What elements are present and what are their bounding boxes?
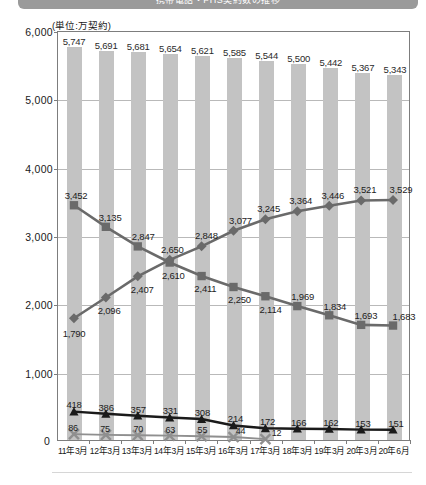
- point-value-label: 70: [133, 424, 143, 434]
- y-axis-tick-label: 5,000: [25, 94, 53, 106]
- point-value-label: 2,250: [228, 294, 251, 305]
- bar-value-label: 5,681: [127, 41, 150, 52]
- point-value-label: 1,693: [354, 310, 377, 321]
- diamond-marker: [388, 195, 398, 205]
- y-axis-tick-label: 2,000: [25, 299, 53, 311]
- point-value-label: 151: [388, 418, 403, 429]
- point-value-label: 214: [228, 413, 243, 424]
- point-value-label: 55: [198, 425, 208, 435]
- chart-container: (単位:万契約) 1,0002,0003,0004,0005,0006,000 …: [0, 0, 426, 485]
- point-value-label: 12: [272, 428, 282, 438]
- point-value-label: 331: [163, 405, 178, 416]
- point-value-label: 166: [291, 417, 306, 428]
- diamond-marker: [324, 201, 334, 211]
- point-value-label: 2,407: [131, 284, 154, 295]
- diamond-marker: [197, 241, 207, 251]
- x-axis-tick-label: 17年3月: [250, 444, 281, 456]
- point-value-label: 308: [195, 407, 210, 418]
- line-series-layer: [58, 32, 409, 440]
- point-value-label: 1,790: [63, 328, 86, 339]
- x-axis-tick-label: 11年3月: [58, 444, 88, 456]
- point-value-label: 86: [68, 423, 78, 433]
- bar-value-label: 5,500: [287, 53, 310, 64]
- point-value-label: 2,847: [132, 231, 155, 242]
- y-axis-tick-label: 3,000: [25, 231, 53, 243]
- square-marker: [325, 311, 333, 319]
- point-value-label: 3,452: [65, 190, 88, 201]
- point-value-label: 3,364: [289, 195, 312, 206]
- bar-value-label: 5,621: [191, 45, 214, 56]
- point-value-label: 63: [166, 425, 176, 435]
- point-value-label: 1,969: [291, 291, 314, 302]
- plot-area: 1,0002,0003,0004,0005,0006,000 5,7475,69…: [57, 31, 410, 441]
- x-axis-tick-label: 20年3月: [346, 444, 377, 456]
- x-axis-tick-mark: [410, 440, 411, 444]
- y-axis-zero-label: 0: [44, 435, 50, 447]
- y-axis-tick-label: 6,000: [25, 26, 53, 38]
- bar-value-label: 5,654: [159, 43, 182, 54]
- point-value-label: 1,834: [323, 301, 346, 312]
- x-axis-tick-label: 19年3月: [314, 444, 345, 456]
- x-axis-tick-label: 15年3月: [186, 444, 217, 456]
- y-axis-tick-label: 1,000: [25, 368, 53, 380]
- x-axis-ticks: 11年3月12年3月13年3月14年3月15年3月16年3月17年3月18年3月…: [57, 444, 410, 464]
- square-marker: [389, 321, 397, 329]
- square-marker: [197, 272, 205, 280]
- point-value-label: 153: [355, 418, 370, 429]
- unit-label: (単位:万契約): [52, 18, 111, 32]
- x-axis-tick-label: 18年3月: [282, 444, 313, 456]
- point-value-label: 3,135: [99, 212, 122, 223]
- diamond-marker: [292, 206, 302, 216]
- point-value-label: 3,446: [321, 190, 344, 201]
- square-marker: [357, 321, 365, 329]
- point-value-label: 2,114: [260, 304, 282, 315]
- point-value-label: 2,650: [161, 244, 184, 255]
- square-marker: [102, 223, 110, 231]
- diamond-marker: [356, 196, 366, 206]
- point-value-label: 3,529: [390, 184, 413, 195]
- point-value-label: 2,411: [194, 283, 216, 294]
- point-value-label: 3,245: [257, 203, 280, 214]
- point-value-label: 75: [100, 424, 110, 434]
- bottom-divider: [52, 472, 412, 473]
- x-axis-tick-label: 14年3月: [154, 444, 185, 456]
- square-marker: [134, 242, 142, 250]
- point-value-label: 162: [323, 417, 338, 428]
- bar-value-label: 5,585: [223, 47, 246, 58]
- point-value-label: 386: [98, 402, 113, 413]
- point-value-label: 418: [66, 399, 81, 410]
- point-value-label: 3,077: [229, 215, 252, 226]
- bar-value-label: 5,367: [351, 62, 374, 73]
- x-axis-tick-label: 16年3月: [218, 444, 249, 456]
- point-value-label: 2,848: [195, 230, 218, 241]
- square-marker: [70, 201, 78, 209]
- point-value-label: 44: [236, 426, 246, 436]
- bar-value-label: 5,544: [255, 50, 278, 61]
- x-axis-tick-label: 20年6月: [379, 444, 410, 456]
- point-value-label: 172: [260, 416, 275, 427]
- point-value-label: 3,521: [353, 184, 376, 195]
- x-axis-tick-label: 13年3月: [122, 444, 153, 456]
- x-axis-tick-label: 12年3月: [90, 444, 121, 456]
- point-value-label: 2,610: [162, 270, 185, 281]
- diamond-marker: [260, 214, 270, 224]
- square-marker: [261, 292, 269, 300]
- bar-value-label: 5,691: [95, 40, 118, 51]
- square-marker: [229, 283, 237, 291]
- bar-value-label: 5,343: [384, 64, 407, 75]
- bar-value-label: 5,442: [319, 57, 342, 68]
- point-value-label: 2,096: [98, 305, 121, 316]
- point-value-label: 1,683: [393, 311, 416, 322]
- diamond-marker: [229, 226, 239, 236]
- y-axis-tick-label: 4,000: [25, 163, 53, 175]
- bar-value-label: 5,747: [63, 36, 86, 47]
- square-marker: [293, 302, 301, 310]
- point-value-label: 357: [131, 404, 146, 415]
